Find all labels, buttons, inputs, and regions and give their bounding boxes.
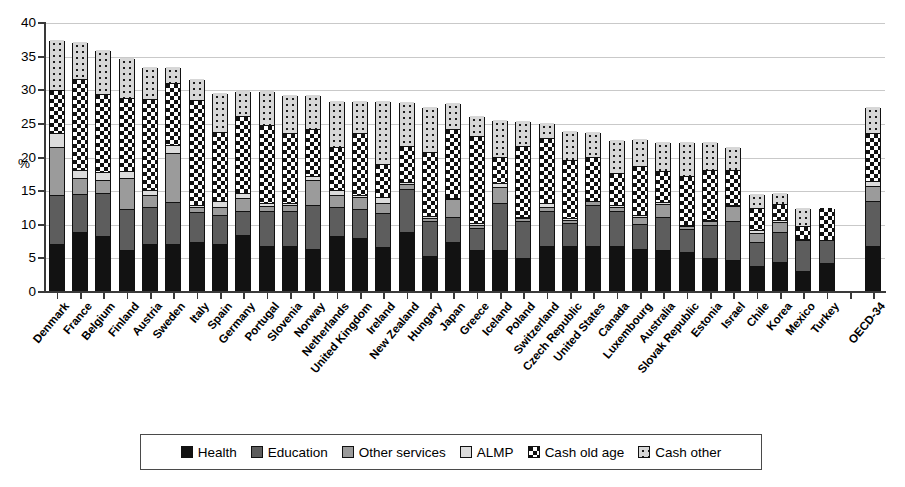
- bar-segment-oldage: [236, 117, 250, 194]
- bar-segment-oldage: [750, 209, 764, 231]
- x-axis-labels: DenmarkFranceBelgiumFinlandAustriaSweden…: [0, 300, 905, 420]
- bar[interactable]: [305, 96, 321, 292]
- bar[interactable]: [492, 121, 508, 292]
- bar[interactable]: [212, 94, 228, 292]
- legend-item-cashother[interactable]: Cash other: [638, 445, 721, 460]
- y-tick-label: 15: [10, 184, 36, 198]
- bar-segment-education: [50, 196, 64, 246]
- bar[interactable]: [119, 59, 135, 292]
- y-axis-labels: 0510152025303540: [2, 0, 36, 300]
- bar-segment-other: [96, 181, 110, 194]
- bar-segment-cashother: [306, 95, 320, 130]
- bar-segment-oldage: [260, 126, 274, 203]
- legend-item-health[interactable]: Health: [181, 445, 237, 460]
- bar-segment-oldage: [796, 227, 810, 240]
- bar-segment-education: [330, 208, 344, 238]
- bar-segment-cashother: [610, 140, 624, 174]
- y-tick: [38, 190, 45, 192]
- bar[interactable]: [515, 122, 531, 292]
- bar[interactable]: [865, 108, 881, 292]
- y-tick: [38, 291, 45, 293]
- bar-segment-other: [120, 179, 134, 210]
- bar-segment-cashother: [470, 116, 484, 137]
- bar[interactable]: [259, 92, 275, 292]
- y-tick-label: 35: [10, 50, 36, 64]
- bar-segment-oldage: [586, 158, 600, 202]
- bar[interactable]: [72, 43, 88, 292]
- bar-segment-cashother: [143, 67, 157, 100]
- bar-segment-oldage: [143, 100, 157, 191]
- bar-segment-almp: [750, 231, 764, 234]
- y-tick: [38, 157, 45, 159]
- bar[interactable]: [539, 124, 555, 292]
- bar-segment-oldage: [493, 158, 507, 184]
- bar-segment-other: [633, 218, 647, 225]
- bar[interactable]: [165, 68, 181, 292]
- bar-segment-oldage: [50, 91, 64, 134]
- bar-segment-almp: [703, 221, 717, 222]
- bar-segment-oldage: [73, 80, 87, 171]
- bar-segment-education: [353, 210, 367, 239]
- bar-segment-oldage: [680, 177, 694, 226]
- bar[interactable]: [562, 132, 578, 292]
- bar-segment-education: [796, 241, 810, 272]
- legend-item-education[interactable]: Education: [251, 445, 328, 460]
- bar-segment-other: [400, 185, 414, 190]
- bar-segment-oldage: [633, 167, 647, 216]
- bar[interactable]: [329, 102, 345, 292]
- bar-segment-oldage: [120, 99, 134, 172]
- legend-item-oldage[interactable]: Cash old age: [528, 445, 625, 460]
- bar-segment-almp: [306, 177, 320, 180]
- bar[interactable]: [352, 102, 368, 292]
- bar-segment-education: [470, 229, 484, 251]
- bar[interactable]: [422, 108, 438, 292]
- bar-segment-education: [143, 208, 157, 245]
- bar-segment-oldage: [773, 205, 787, 221]
- bar-segment-oldage: [166, 84, 180, 147]
- bar-segment-education: [540, 212, 554, 246]
- bar-segment-cashother: [796, 208, 810, 228]
- stacked-bar-chart: 0510152025303540 % DenmarkFranceBelgiumF…: [0, 0, 905, 487]
- bar-segment-other: [610, 208, 624, 213]
- bar[interactable]: [282, 96, 298, 292]
- y-tick: [38, 224, 45, 226]
- bar-segment-almp: [50, 134, 64, 148]
- bar-segment-other: [283, 206, 297, 211]
- bar-segment-education: [446, 218, 460, 242]
- bar[interactable]: [189, 80, 205, 293]
- y-tick-label: 0: [10, 285, 36, 299]
- legend-item-other[interactable]: Other services: [342, 445, 446, 460]
- y-tick: [38, 257, 45, 259]
- bar-segment-other: [563, 221, 577, 224]
- bar-segment-other: [726, 207, 740, 222]
- bar-segment-oldage: [213, 133, 227, 202]
- bar-segment-education: [190, 213, 204, 243]
- bar-segment-other: [306, 181, 320, 207]
- gridline: [45, 23, 885, 24]
- bar-segment-other: [446, 200, 460, 218]
- bar[interactable]: [469, 117, 485, 292]
- bar-segment-other: [586, 202, 600, 206]
- bar-segment-education: [213, 216, 227, 245]
- bar-segment-oldage: [190, 101, 204, 206]
- bar-segment-oldage: [703, 171, 717, 221]
- chart-legend: HealthEducationOther servicesALMPCash ol…: [140, 434, 762, 470]
- bar-segment-education: [306, 206, 320, 250]
- bar-segment-oldage: [866, 134, 880, 182]
- bar-segment-oldage: [726, 171, 740, 206]
- bar-segment-oldage: [96, 95, 110, 172]
- bar-segment-almp: [376, 198, 390, 204]
- bar-segment-education: [866, 202, 880, 247]
- bar[interactable]: [142, 68, 158, 292]
- bar-segment-almp: [633, 216, 647, 219]
- bar-segment-cashother: [236, 91, 250, 117]
- bar-segment-other: [376, 204, 390, 214]
- bar-segment-cashother: [400, 102, 414, 147]
- bar-segment-cashother: [633, 139, 647, 167]
- bar-segment-other: [213, 208, 227, 217]
- bar[interactable]: [772, 194, 788, 292]
- bar[interactable]: [235, 92, 251, 292]
- bar[interactable]: [49, 41, 65, 293]
- legend-item-almp[interactable]: ALMP: [460, 445, 514, 460]
- bar[interactable]: [95, 51, 111, 292]
